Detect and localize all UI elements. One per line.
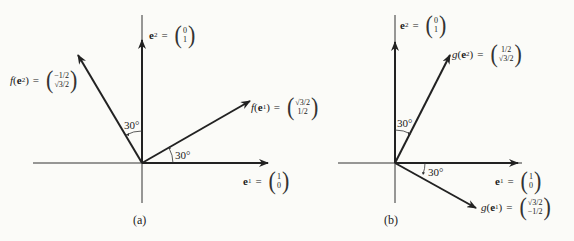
angle-label-a-lower: 30° (175, 150, 190, 161)
label-e1-a: e1 = (10) (243, 170, 289, 192)
angle-label-b-upper: 30° (397, 118, 412, 129)
label-fe2: f(e2) = (−1/2√3/2) (10, 69, 77, 91)
caption-a: (a) (133, 213, 146, 228)
angle-arc-a1 (169, 148, 173, 163)
label-ge1: g(e1) = (√3/2−1/2) (481, 196, 551, 218)
arrow-fe2 (78, 55, 142, 163)
label-e2-a: e2 = (01) (149, 24, 195, 46)
label-ge2: g(e2) = (1/2√3/2) (452, 43, 522, 65)
angle-label-b-lower: 30° (428, 167, 443, 178)
caption-b: (b) (384, 213, 398, 228)
angle-label-a-upper: 30° (124, 120, 139, 131)
label-fe1: f(e1) = (√3/21/2) (251, 96, 318, 118)
arrow-ge2 (395, 55, 450, 163)
arrow-fe1 (142, 101, 250, 163)
label-e2-b: e2 = (01) (400, 14, 446, 36)
label-e1-b: e1 = (10) (495, 170, 541, 192)
